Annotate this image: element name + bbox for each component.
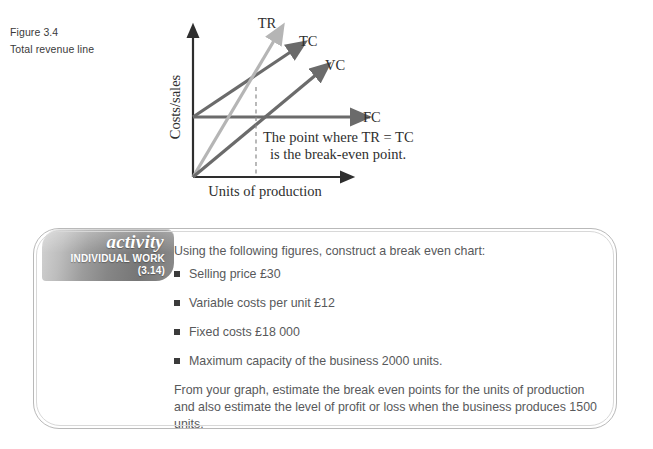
list-item-label: Fixed costs £18 000 [189,325,300,339]
tr-label: TR [258,15,277,31]
figure-caption: Figure 3.4 Total revenue line [10,24,160,58]
list-item-label: Selling price £30 [189,267,281,281]
break-even-annotation-line1: The point where TR = TC [263,129,414,145]
activity-title: activity [106,231,164,253]
figure-title: Total revenue line [10,41,160,58]
activity-body: Using the following figures, construct a… [174,243,598,433]
activity-number: (3.14) [138,265,165,276]
break-even-diagram: TR TC VC FC Costs/sales Units of product… [160,8,580,208]
activity-intro: Using the following figures, construct a… [174,243,598,260]
activity-kind: INDIVIDUAL WORK [71,253,165,264]
y-axis-label: Costs/sales [167,74,183,139]
square-bullet-icon [174,358,180,364]
list-item: Variable costs per unit £12 [174,295,598,312]
figure-number: Figure 3.4 [10,24,160,41]
tc-label: TC [299,33,318,49]
activity-outro: From your graph, estimate the break even… [174,382,598,433]
square-bullet-icon [174,271,180,277]
activity-box: activity INDIVIDUAL WORK (3.14) Using th… [33,228,617,429]
activity-list: Selling price £30 Variable costs per uni… [174,266,598,370]
activity-tab: activity INDIVIDUAL WORK (3.14) [42,229,174,281]
list-item-label: Maximum capacity of the business 2000 un… [189,354,442,368]
break-even-annotation-line2: is the break-even point. [270,146,406,162]
square-bullet-icon [174,300,180,306]
square-bullet-icon [174,329,180,335]
list-item: Maximum capacity of the business 2000 un… [174,353,598,370]
list-item-label: Variable costs per unit £12 [189,296,335,310]
vc-label: VC [325,57,345,73]
fc-label: FC [363,109,381,125]
x-axis-label: Units of production [208,183,322,199]
list-item: Selling price £30 [174,266,598,283]
list-item: Fixed costs £18 000 [174,324,598,341]
